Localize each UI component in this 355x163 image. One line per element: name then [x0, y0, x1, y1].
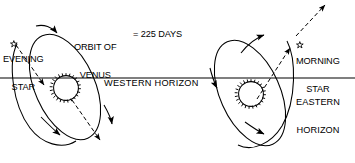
right-orbit-arrow-top — [241, 35, 264, 53]
western-horizon-label: WESTERN HORIZON — [104, 79, 199, 88]
eastern-horizon-label-line1: EASTERN — [296, 98, 340, 107]
left-orbit-arrow-top — [36, 25, 57, 33]
left-orbit-arrow-lower-left — [41, 117, 60, 135]
left-sight-line-lower — [72, 100, 100, 140]
morning-star-label-line1: MORNING — [296, 57, 340, 66]
right-orbit-ellipse — [200, 30, 300, 157]
right-sight-line-upper — [296, 5, 325, 36]
right-sun-icon — [235, 79, 266, 109]
diagram-canvas: EVENING STAR ORBIT OF VENUS = 225 DAYS W… — [0, 0, 355, 163]
orbit-period-label: = 225 DAYS — [133, 30, 182, 39]
evening-star-label-line1: EVENING — [3, 55, 44, 64]
evening-star-label-line2: STAR — [3, 83, 44, 92]
orbit-label-line1: ORBIT OF — [74, 43, 116, 52]
eastern-horizon-label: EASTERN HORIZON — [296, 79, 340, 154]
evening-star-label: EVENING STAR — [3, 36, 44, 111]
left-orbit-arrow-right — [104, 105, 112, 124]
right-orbit-arrow-lower — [245, 122, 264, 134]
eastern-horizon-label-line2: HORIZON — [296, 126, 340, 135]
